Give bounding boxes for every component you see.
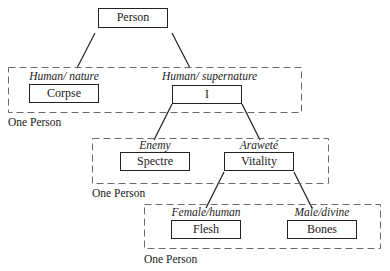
node-person-label: Person	[117, 10, 150, 24]
node-flesh: Flesh	[171, 220, 241, 239]
node-vitality: Vitality	[224, 152, 294, 171]
group-caption-level-1: One Person	[8, 116, 61, 129]
category-human-nature: Human/ nature	[29, 70, 99, 83]
node-vitality-label: Vitality	[241, 154, 277, 168]
category-arawete: Araweté	[224, 139, 294, 152]
edge-i-spectre	[154, 104, 172, 140]
group-caption-level-2: One Person	[92, 187, 145, 200]
category-female-human: Female/human	[166, 206, 246, 219]
edge-i-vitality	[242, 104, 260, 140]
category-male-divine: Male/divine	[282, 206, 362, 219]
edge-person-i	[172, 33, 190, 68]
node-corpse-label: Corpse	[47, 86, 81, 100]
node-i-label: I	[205, 87, 209, 101]
group-caption-level-3: One Person	[144, 253, 197, 266]
node-spectre: Spectre	[120, 152, 190, 171]
edge-vitality-flesh	[206, 172, 224, 208]
node-bones-label: Bones	[307, 222, 337, 236]
node-spectre-label: Spectre	[137, 154, 173, 168]
category-human-supernature: Human/ supernature	[162, 70, 252, 83]
node-corpse: Corpse	[29, 84, 99, 103]
edge-person-corpse	[77, 33, 95, 68]
node-flesh-label: Flesh	[193, 222, 219, 236]
node-bones: Bones	[287, 220, 357, 239]
category-enemy: Enemy	[120, 139, 190, 152]
node-i: I	[172, 85, 242, 104]
edge-vitality-bones	[294, 172, 312, 208]
tree-diagram: Person Human/ nature Corpse Human/ super…	[0, 0, 390, 271]
node-person: Person	[98, 8, 168, 28]
